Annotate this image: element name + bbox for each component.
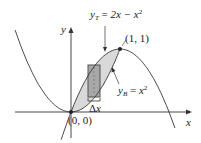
y-axis-label: y [61, 24, 66, 35]
y-axis-arrow-icon [69, 27, 74, 33]
top-curve-rhs: 2x − x [111, 8, 139, 20]
point-1-1 [118, 47, 122, 51]
point-1-1-label: (1, 1) [125, 33, 149, 44]
top-curve-exp: 2 [139, 8, 143, 16]
delta-x-label: Δx [89, 103, 101, 114]
bottom-leader-arrow-icon [112, 67, 116, 73]
delta-var: x [96, 102, 101, 114]
point-origin-label: (0, 0) [68, 115, 92, 126]
bottom-curve-leader [113, 70, 119, 84]
bottom-curve-label: yB = x2 [118, 85, 147, 98]
x-axis-arrow-icon [186, 110, 192, 115]
bottom-curve-exp: 2 [144, 84, 148, 92]
top-leader-arrow-icon [103, 47, 107, 52]
x-axis-label: x [186, 117, 191, 128]
top-curve-label: yT = 2x − x2 [90, 9, 142, 22]
